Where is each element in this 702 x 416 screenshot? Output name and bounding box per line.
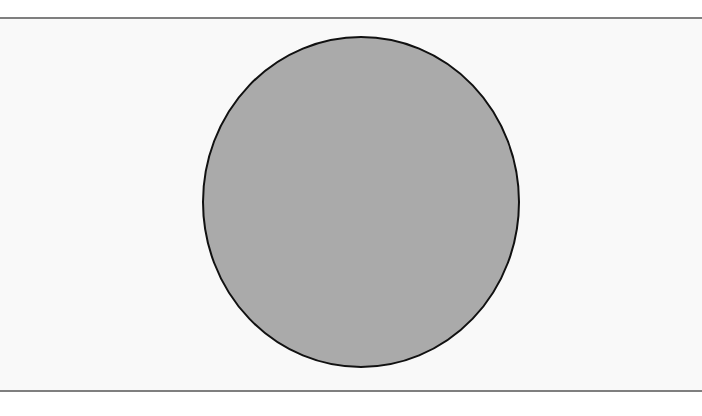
drawing-canvas	[0, 0, 702, 416]
circle-shape[interactable]	[203, 37, 519, 367]
